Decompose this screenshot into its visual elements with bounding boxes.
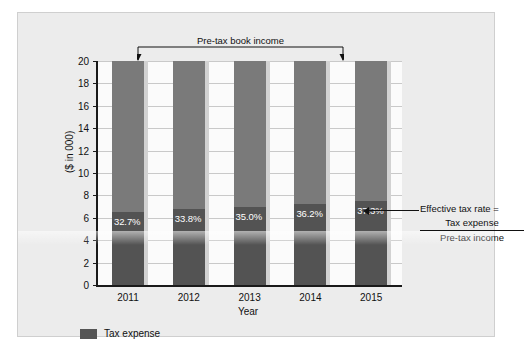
- y-axis-tick: [93, 240, 98, 241]
- bar-shadow: [387, 61, 391, 285]
- x-axis-tick-label: 2011: [110, 292, 146, 303]
- effective-tax-rate-formula: Effective tax rate = Tax expense Pre-tax…: [420, 203, 524, 245]
- formula-numerator: Tax expense: [420, 217, 524, 232]
- y-axis-tick: [93, 263, 98, 264]
- x-axis-title: Year: [96, 306, 400, 317]
- y-axis-tick-label: 4: [83, 235, 89, 246]
- bar-2015[interactable]: 37.3%2015: [355, 61, 387, 285]
- legend-swatch-tax-expense: [80, 329, 97, 339]
- x-axis-tick-label: 2012: [171, 292, 207, 303]
- annotation-leader-line: [367, 210, 419, 211]
- data-label-2014: 36.2%: [296, 208, 322, 219]
- data-label-2011: 32.7%: [114, 216, 140, 227]
- plot-area: 20181614121086420 32.7%201133.8%201235.0…: [96, 61, 402, 287]
- bar-2012[interactable]: 33.8%2012: [173, 61, 205, 285]
- y-axis-tick: [93, 285, 98, 286]
- bar-segment-pretax-remainder[interactable]: [234, 61, 266, 207]
- formula-denominator: Pre-tax income: [420, 231, 524, 245]
- y-axis-tick-label: 12: [78, 145, 89, 156]
- y-axis-tick-label: 8: [83, 190, 89, 201]
- formula-line-1: Effective tax rate =: [420, 203, 524, 216]
- y-axis-tick-label: 6: [83, 212, 89, 223]
- data-label-2013: 35.0%: [236, 211, 262, 222]
- bar-segment-pretax-remainder[interactable]: [294, 61, 326, 204]
- bar-2011[interactable]: 32.7%2011: [112, 61, 144, 285]
- y-axis-tick-label: 16: [78, 100, 89, 111]
- data-label-2012: 33.8%: [175, 213, 201, 224]
- annotation-arrow-icon: [363, 207, 369, 215]
- legend-label-tax-expense: Tax expense: [104, 328, 160, 339]
- bar-shadow: [326, 61, 330, 285]
- bar-2013[interactable]: 35.0%2013: [234, 61, 266, 285]
- legend: Tax expense: [80, 328, 160, 339]
- y-axis-tick: [93, 83, 98, 84]
- y-axis-tick: [93, 173, 98, 174]
- bar-shadow: [144, 61, 148, 285]
- bar-segment-pretax-remainder[interactable]: [112, 61, 144, 212]
- y-axis-tick: [93, 106, 98, 107]
- bar-shadow: [205, 61, 209, 285]
- bar-2014[interactable]: 36.2%2014: [294, 61, 326, 285]
- chart-panel: ($ in 000) Pre-tax book income 201816141…: [17, 12, 495, 337]
- y-axis-tick: [93, 195, 98, 196]
- y-axis-tick: [93, 151, 98, 152]
- y-axis-tick: [93, 128, 98, 129]
- y-axis-tick-label: 10: [78, 168, 89, 179]
- bar-segment-pretax-remainder[interactable]: [173, 61, 205, 209]
- x-axis-tick-label: 2013: [232, 292, 268, 303]
- y-axis-tick: [93, 61, 98, 62]
- bar-shadow: [266, 61, 270, 285]
- y-axis-tick-label: 20: [78, 56, 89, 67]
- y-axis-tick: [93, 218, 98, 219]
- bar-segment-pretax-remainder[interactable]: [355, 61, 387, 201]
- pre-tax-book-income-label: Pre-tax book income: [137, 35, 344, 46]
- x-axis-tick-label: 2014: [292, 292, 328, 303]
- y-axis-tick-label: 2: [83, 257, 89, 268]
- y-axis-title: ($ in 000): [64, 131, 75, 173]
- y-axis-tick-label: 0: [83, 280, 89, 291]
- y-axis-tick-label: 14: [78, 123, 89, 134]
- x-axis-tick-label: 2015: [353, 292, 389, 303]
- y-axis-tick-label: 18: [78, 78, 89, 89]
